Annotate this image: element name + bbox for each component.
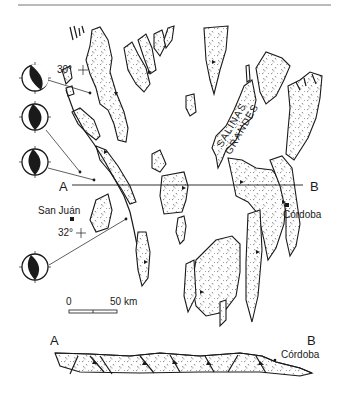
svg-text:0: 0 [66, 296, 72, 307]
san-juan-label: San Juán [38, 205, 80, 216]
section-label-a: A [50, 333, 59, 348]
map-label-b: B [310, 179, 319, 194]
san-juan-marker [70, 217, 74, 221]
scale-bar: 0 50 km [66, 296, 137, 313]
svg-text:50 km: 50 km [110, 296, 137, 307]
beachball-icon [19, 101, 51, 133]
beachball-icon [19, 251, 51, 283]
latitude-30-label: 30° [57, 64, 72, 75]
section-cordoba-label: Córdoba [281, 349, 320, 360]
geologic-map-figure: A B 30° 32° San Juán Córdoba SALINAS GRA… [0, 0, 349, 397]
section-label-b: B [307, 333, 316, 348]
beachball-icon [19, 62, 51, 94]
beachball-icon [19, 146, 51, 178]
cross-section [55, 353, 312, 376]
cordoba-marker [285, 203, 289, 207]
mountain-ranges [62, 26, 322, 326]
map-label-a: A [59, 179, 68, 194]
cordoba-label: Córdoba [283, 209, 322, 220]
latitude-32-label: 32° [58, 227, 73, 238]
